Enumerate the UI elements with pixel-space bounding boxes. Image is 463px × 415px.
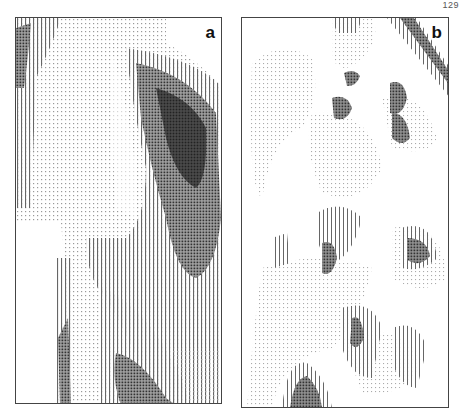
contour-map-b (242, 18, 449, 408)
figure-panel-b: b (241, 17, 449, 408)
panel-label-a: a (206, 23, 215, 43)
page-number: 129 (442, 0, 459, 10)
figure-panel-a: a (15, 17, 222, 404)
panel-label-b: b (432, 23, 442, 43)
contour-map-a (16, 18, 222, 404)
